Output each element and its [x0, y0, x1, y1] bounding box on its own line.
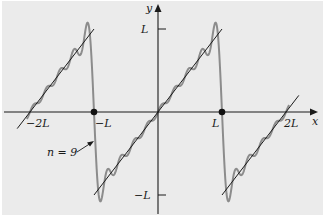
y-tick-label-L: L	[140, 23, 148, 36]
midpoint-dot-minus-L	[91, 109, 98, 116]
y-axis-label: y	[145, 2, 153, 15]
n-terms-annotation: n = 9	[47, 146, 77, 159]
x-tick-label-minus-2L: −2L	[26, 117, 50, 130]
x-tick-label-2L: 2L	[283, 117, 298, 130]
x-axis-label: x	[312, 115, 319, 128]
fourier-sawtooth-figure: x y L −L −2L −L L 2L n = 9	[0, 0, 325, 216]
x-tick-label-L: L	[211, 117, 219, 130]
figure-background	[2, 1, 323, 215]
x-tick-label-minus-L: −L	[95, 117, 112, 130]
y-tick-label-minus-L: −L	[134, 189, 151, 202]
midpoint-dot-L	[219, 109, 226, 116]
